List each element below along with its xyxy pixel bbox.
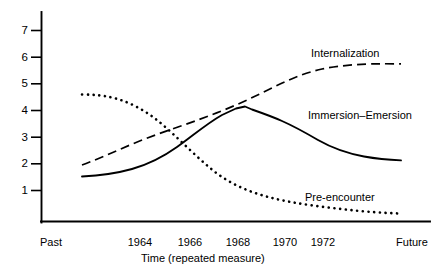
series-label-internalization: Internalization	[311, 47, 380, 59]
y-tick-label-3: 3	[12, 131, 28, 143]
x-tick-label-1966: 1966	[170, 236, 210, 248]
y-tick-label-4: 4	[12, 104, 28, 116]
x-tick-label-1970: 1970	[265, 236, 305, 248]
x-tick-label-past: Past	[31, 236, 71, 248]
chart-plot-area	[0, 0, 437, 272]
x-tick-label-future: Future	[390, 236, 434, 248]
y-tick-label-2: 2	[12, 157, 28, 169]
x-tick-label-1964: 1964	[120, 236, 160, 248]
series-label-pre-encounter: Pre-encounter	[305, 191, 375, 203]
series-label-immersion-emersion: Immersion–Emersion	[308, 109, 412, 121]
x-tick-label-1968: 1968	[218, 236, 258, 248]
y-tick-label-6: 6	[12, 51, 28, 63]
y-tick-label-5: 5	[12, 77, 28, 89]
line-chart: 7 6 5 4 3 2 1 Past 1964 1966 1968 1970 1…	[0, 0, 437, 272]
x-tick-label-1972: 1972	[303, 236, 343, 248]
y-tick-label-7: 7	[12, 24, 28, 36]
x-axis-title: Time (repeated measure)	[141, 252, 265, 264]
y-tick-label-1: 1	[12, 184, 28, 196]
